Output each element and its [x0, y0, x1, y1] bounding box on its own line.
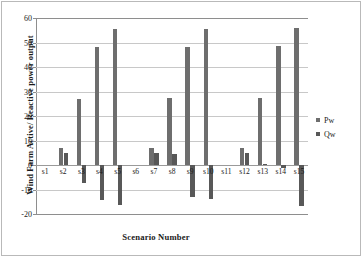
y-tick-label: -10 — [21, 185, 32, 194]
bar-group-s1 — [36, 18, 54, 214]
x-tick-label-s15: s15 — [290, 166, 308, 177]
bar-s5-Pw — [113, 29, 117, 165]
legend-swatch-icon-pw — [316, 118, 320, 122]
bar-s9-Pw — [185, 47, 189, 165]
bar-group-s3 — [72, 18, 90, 214]
y-tick-label: 30 — [24, 87, 32, 96]
y-tick-label: 0 — [28, 161, 32, 170]
x-tick-label-s6: s6 — [127, 166, 145, 177]
legend-item-pw: Pw — [316, 113, 336, 127]
bar-group-s15 — [290, 18, 308, 214]
bar-s3-Pw — [77, 99, 81, 165]
bar-s14-Pw — [276, 46, 280, 165]
bar-group-s6 — [127, 18, 145, 214]
legend-item-qw: Qw — [316, 127, 336, 141]
bar-s2-Qw — [64, 153, 68, 165]
legend-label-qw: Qw — [324, 130, 336, 139]
bar-group-s12 — [236, 18, 254, 214]
x-tick-label-s11: s11 — [217, 166, 235, 177]
bar-s12-Qw — [245, 153, 249, 165]
bar-group-s5 — [109, 18, 127, 214]
y-tick-label: 50 — [24, 38, 32, 47]
bar-s7-Pw — [149, 148, 153, 165]
bar-s12-Pw — [240, 148, 244, 165]
x-tick-label-s9: s9 — [181, 166, 199, 177]
bar-s13-Qw — [263, 164, 267, 165]
x-tick-label-s13: s13 — [254, 166, 272, 177]
bar-s2-Pw — [59, 148, 63, 165]
y-tick-label: 40 — [24, 63, 32, 72]
x-tick-label-s3: s3 — [72, 166, 90, 177]
bar-group-s8 — [163, 18, 181, 214]
y-tick-label: 60 — [24, 14, 32, 23]
x-tick-label-s12: s12 — [236, 166, 254, 177]
bar-s7-Qw — [154, 153, 158, 165]
chart-legend: Pw Qw — [316, 113, 336, 141]
bar-group-s4 — [90, 18, 108, 214]
plot-area: 6050403020100-10-20s1s2s3s4s5s6s7s8s9s10… — [36, 18, 308, 214]
x-tick-labels: s1s2s3s4s5s6s7s8s9s10s11s12s13s14s15 — [36, 166, 308, 177]
bar-groups — [36, 18, 308, 214]
bar-s10-Pw — [204, 29, 208, 165]
chart-figure: Wind Farm Active/ Reactive power output … — [0, 0, 363, 258]
legend-swatch-icon-qw — [316, 132, 320, 136]
bar-group-s14 — [272, 18, 290, 214]
bar-s8-Qw — [172, 154, 176, 165]
bar-group-s11 — [217, 18, 235, 214]
x-tick-label-s1: s1 — [36, 166, 54, 177]
bar-group-s2 — [54, 18, 72, 214]
y-tick-label: -20 — [21, 210, 32, 219]
y-tick-mark — [33, 214, 36, 215]
gridline--20 — [36, 214, 308, 215]
bar-s13-Pw — [258, 98, 262, 165]
bar-group-s7 — [145, 18, 163, 214]
bar-s4-Pw — [95, 47, 99, 165]
x-tick-label-s7: s7 — [145, 166, 163, 177]
bar-s15-Pw — [294, 28, 298, 165]
bar-group-s9 — [181, 18, 199, 214]
x-axis-title: Scenario Number — [36, 232, 276, 242]
y-tick-label: 20 — [24, 112, 32, 121]
x-tick-label-s4: s4 — [90, 166, 108, 177]
x-tick-label-s2: s2 — [54, 166, 72, 177]
bar-group-s10 — [199, 18, 217, 214]
x-tick-label-s5: s5 — [109, 166, 127, 177]
x-tick-label-s14: s14 — [272, 166, 290, 177]
bar-group-s13 — [254, 18, 272, 214]
y-tick-label: 10 — [24, 136, 32, 145]
x-tick-label-s8: s8 — [163, 166, 181, 177]
x-tick-label-s10: s10 — [199, 166, 217, 177]
bar-s8-Pw — [167, 98, 171, 165]
legend-label-pw: Pw — [324, 116, 334, 125]
